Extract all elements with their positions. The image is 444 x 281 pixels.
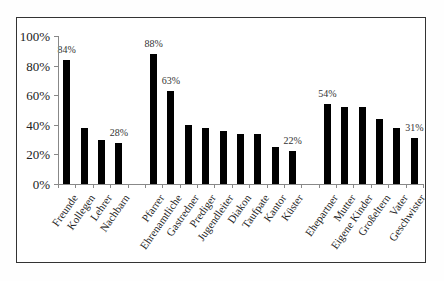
bar	[167, 91, 174, 184]
bar	[272, 147, 279, 184]
data-label: 54%	[312, 88, 342, 99]
bar	[115, 143, 122, 184]
bar	[324, 104, 331, 184]
x-axis	[58, 184, 423, 185]
y-tick-label: 40%	[12, 119, 50, 132]
bar	[81, 128, 88, 184]
data-label: 28%	[104, 127, 134, 138]
data-label: 88%	[139, 38, 169, 49]
y-tick-label: 100%	[12, 30, 50, 43]
bar	[393, 128, 400, 184]
bar	[254, 134, 261, 184]
bar	[185, 125, 192, 184]
bar	[237, 134, 244, 184]
bar	[150, 54, 157, 184]
data-label: 31%	[399, 122, 429, 133]
y-tick-label: 60%	[12, 89, 50, 102]
y-tick-label: 20%	[12, 148, 50, 161]
bar	[341, 107, 348, 184]
bar	[220, 131, 227, 184]
bar	[376, 119, 383, 184]
bar	[63, 60, 70, 184]
bar	[359, 107, 366, 184]
bar	[202, 128, 209, 184]
x-tick	[423, 184, 424, 188]
bar	[411, 138, 418, 184]
y-tick-label: 80%	[12, 60, 50, 73]
bar	[98, 140, 105, 184]
data-label: 84%	[52, 44, 82, 55]
y-axis	[58, 36, 59, 184]
data-label: 22%	[278, 135, 308, 146]
y-tick-label: 0%	[12, 178, 50, 191]
data-label: 63%	[156, 75, 186, 86]
bar	[289, 151, 296, 184]
